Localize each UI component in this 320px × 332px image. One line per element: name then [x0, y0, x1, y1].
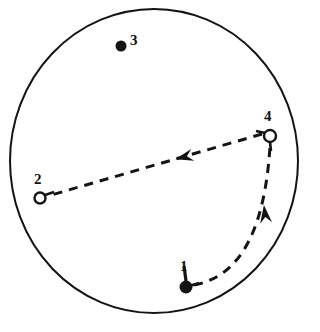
point-1-label: 1 [180, 259, 188, 274]
point-3-label: 3 [130, 33, 138, 48]
arrowhead-toward-2-icon [174, 149, 194, 165]
point-2-marker [35, 192, 55, 204]
point-4-marker [256, 130, 276, 151]
figure-canvas: 1 2 3 4 [0, 0, 320, 332]
point-2-label: 2 [34, 172, 42, 187]
point-4-label: 4 [264, 109, 272, 124]
point-3-marker [116, 41, 127, 52]
arena-boundary-circle [10, 9, 298, 313]
path-segment-4-to-2 [48, 134, 262, 196]
trajectory-diagram [0, 0, 320, 332]
